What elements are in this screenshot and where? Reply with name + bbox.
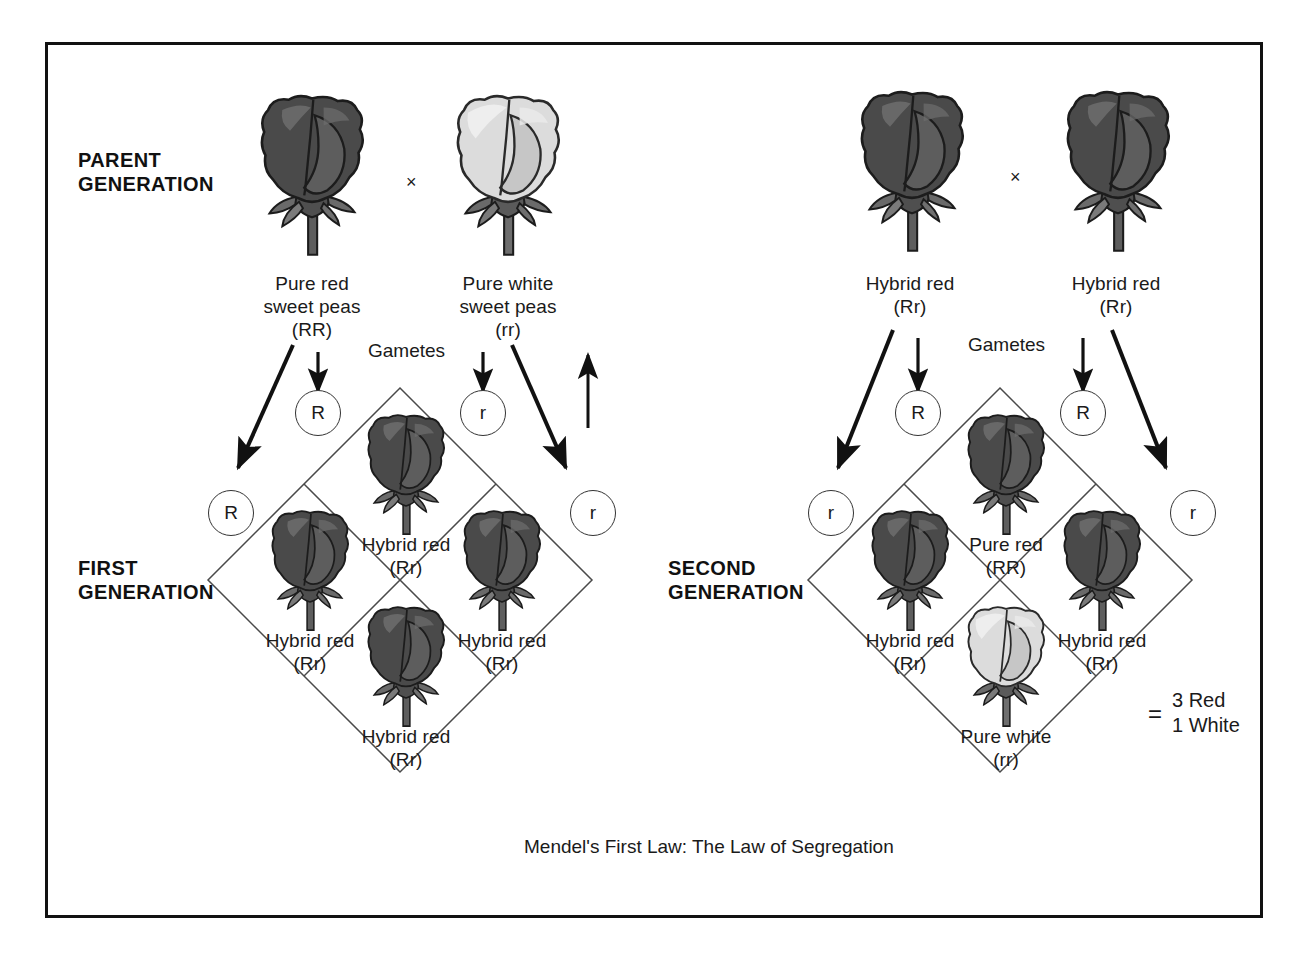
ratio-red-line: 3 Red (1172, 688, 1225, 713)
right-parent-1-label: Hybrid red (Rr) (830, 272, 990, 318)
parent-generation-label: PARENT GENERATION (78, 148, 214, 196)
gamete-circle-left-inner-r: r (460, 390, 506, 436)
gamete-circle-right-outer-r1: r (808, 490, 854, 536)
left-parent-1-label: Pure red sweet peas (RR) (232, 272, 392, 341)
second-generation-label: SECOND GENERATION (668, 556, 804, 604)
figure-caption: Mendel's First Law: The Law of Segregati… (524, 836, 894, 858)
gamete-circle-right-inner-R2: R (1060, 390, 1106, 436)
figure-canvas: PARENT GENERATION FIRST GENERATION SECON… (0, 0, 1309, 962)
first-generation-label: FIRST GENERATION (78, 556, 214, 604)
gamete-circle-left-outer-r: r (570, 490, 616, 536)
gametes-label-left: Gametes (368, 340, 445, 362)
gamete-circle-left-inner-R: R (295, 390, 341, 436)
left-offspring-left-label: Hybrid red (Rr) (230, 629, 390, 675)
left-offspring-right-label: Hybrid red (Rr) (422, 629, 582, 675)
right-offspring-bottom-label: Pure white (rr) (926, 725, 1086, 771)
gamete-circle-right-outer-r2: r (1170, 490, 1216, 536)
cross-symbol-right: × (1010, 167, 1021, 188)
right-offspring-top-label: Pure red (RR) (926, 533, 1086, 579)
ratio-equals-sign: = (1148, 700, 1162, 728)
ratio-white-line: 1 White (1172, 713, 1240, 738)
right-parent-2-label: Hybrid red (Rr) (1036, 272, 1196, 318)
cross-symbol-left: × (406, 172, 417, 193)
gamete-circle-left-outer-R: R (208, 490, 254, 536)
left-offspring-bottom-label: Hybrid red (Rr) (326, 725, 486, 771)
gamete-circle-right-inner-R1: R (895, 390, 941, 436)
left-offspring-top-label: Hybrid red (Rr) (326, 533, 486, 579)
gametes-label-right: Gametes (968, 334, 1045, 356)
right-offspring-right-label: Hybrid red (Rr) (1022, 629, 1182, 675)
figure-frame (45, 42, 1263, 918)
left-parent-2-label: Pure white sweet peas (rr) (428, 272, 588, 341)
right-offspring-left-label: Hybrid red (Rr) (830, 629, 990, 675)
